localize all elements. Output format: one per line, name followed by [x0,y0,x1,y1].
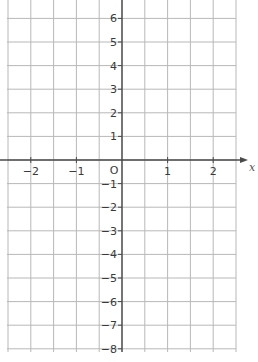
y-tick-label: 6 [110,12,117,25]
y-tick-label: 2 [110,107,117,120]
y-tick-label: 3 [110,83,117,96]
y-tick-label: 4 [110,60,117,73]
x-axis-arrow-icon [240,157,248,163]
y-tick-label: −2 [101,201,117,214]
y-tick-label: −4 [101,248,117,261]
x-tick-label: 1 [164,165,171,178]
y-tick-label: 1 [110,130,117,143]
y-tick-label: −3 [101,225,117,238]
origin-label: O [110,164,119,177]
y-tick-label: −5 [101,272,117,285]
x-tick-label: −1 [68,165,84,178]
y-tick-label: −6 [101,296,117,309]
y-tick-label: −8 [101,343,117,356]
x-tick-label: 2 [210,165,217,178]
y-tick-label: −1 [101,178,117,191]
coordinate-grid: −2−112654321−1−2−3−4−5−6−7−8 x O [0,0,258,362]
x-tick-label: −2 [23,165,39,178]
y-tick-label: −7 [101,319,117,332]
y-tick-label: 5 [110,36,117,49]
x-axis-label: x [249,161,256,174]
